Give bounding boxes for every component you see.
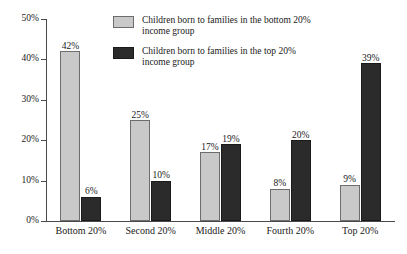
legend-item[interactable]: Children born to families in the bottom … xyxy=(113,15,311,37)
legend-label: Children born to families in the bottom … xyxy=(142,15,311,37)
legend-label-line2: income group xyxy=(142,57,296,68)
bar-value-label: 25% xyxy=(131,111,148,121)
bar[interactable]: 25% xyxy=(130,120,150,221)
bar[interactable]: 39% xyxy=(361,63,381,221)
chart-screenshot: 0%10%20%30%40%50% 42%6%25%10%17%19%8%20%… xyxy=(0,0,407,254)
bar-value-label: 17% xyxy=(201,143,218,153)
y-axis-label: 20% xyxy=(22,135,39,145)
bar[interactable]: 17% xyxy=(200,152,220,221)
bar[interactable]: 10% xyxy=(151,181,171,221)
category-label: Bottom 20% xyxy=(55,226,106,236)
y-axis-tick xyxy=(41,59,46,60)
category-label: Top 20% xyxy=(342,226,378,236)
bar-value-label: 9% xyxy=(343,175,356,185)
y-axis-tick xyxy=(41,19,46,20)
category-label: Middle 20% xyxy=(196,226,246,236)
legend-label: Children born to families in the top 20%… xyxy=(142,46,296,68)
y-axis-label: 0% xyxy=(26,216,39,226)
category-label: Fourth 20% xyxy=(267,226,315,236)
chart-legend: Children born to families in the bottom … xyxy=(113,15,311,77)
bar-value-label: 6% xyxy=(85,187,98,197)
bar[interactable]: 20% xyxy=(291,140,311,221)
bar-value-label: 20% xyxy=(292,131,309,141)
legend-swatch-icon xyxy=(113,47,134,59)
y-axis-tick xyxy=(41,221,46,222)
bar-value-label: 42% xyxy=(62,42,79,52)
legend-label-line1: Children born to families in the top 20% xyxy=(142,46,296,57)
bar-value-label: 8% xyxy=(273,179,286,189)
bar-value-label: 19% xyxy=(222,135,239,145)
y-axis-tick xyxy=(41,100,46,101)
y-axis-label: 40% xyxy=(22,55,39,65)
x-axis-line xyxy=(46,221,395,222)
y-axis-label: 50% xyxy=(22,14,39,24)
bar[interactable]: 8% xyxy=(270,189,290,221)
bar[interactable]: 42% xyxy=(60,51,80,221)
category-label: Second 20% xyxy=(126,226,176,236)
legend-swatch-icon xyxy=(113,16,134,28)
bar[interactable]: 6% xyxy=(81,197,101,221)
y-axis-label: 30% xyxy=(22,95,39,105)
legend-label-line2: income group xyxy=(142,26,311,37)
y-axis-tick xyxy=(41,181,46,182)
y-axis-label: 10% xyxy=(22,176,39,186)
bar[interactable]: 9% xyxy=(340,185,360,221)
y-axis-tick xyxy=(41,140,46,141)
bar[interactable]: 19% xyxy=(221,144,241,221)
y-axis-line xyxy=(46,19,47,222)
bar-value-label: 39% xyxy=(362,54,379,64)
legend-label-line1: Children born to families in the bottom … xyxy=(142,15,311,26)
bar-value-label: 10% xyxy=(152,171,169,181)
legend-item[interactable]: Children born to families in the top 20%… xyxy=(113,46,311,68)
